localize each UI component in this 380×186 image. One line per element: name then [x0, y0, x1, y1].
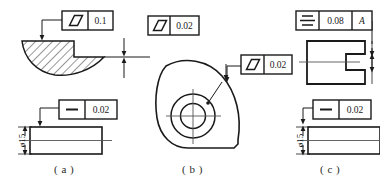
diameter-15-c: ø15	[295, 133, 305, 147]
caption-figure-b: ( b )	[182, 163, 203, 175]
datum-letter: A	[358, 16, 365, 26]
flatness-frame-a-top[interactable]: 0.1	[62, 11, 113, 30]
flatness-frame-a-right[interactable]: 0.02	[148, 16, 199, 35]
straightness-frame-a-bottom[interactable]: 0.02	[59, 100, 117, 119]
drawing-canvas: 0.1 0.02 ø15	[0, 0, 380, 186]
flatness-frame-b[interactable]: 0.02	[241, 55, 292, 74]
tolerance-value: 0.02	[270, 60, 287, 70]
slotted-block-c	[307, 41, 365, 84]
caption-figure-a: ( a )	[54, 163, 74, 175]
tolerance-value: 0.02	[93, 105, 110, 115]
hatched-section-a	[22, 41, 104, 75]
tolerance-value: 0.1	[95, 16, 107, 26]
leader-c-bottom	[303, 108, 313, 122]
diameter-15-a: ø15	[17, 133, 27, 147]
straightness-frame-c-bottom[interactable]: 0.02	[313, 100, 371, 119]
tolerance-value: 0.08	[327, 16, 344, 26]
symmetry-frame-c-top[interactable]: 0.08 A	[296, 11, 372, 30]
tolerance-value: 0.02	[347, 105, 364, 115]
tolerance-value: 0.02	[176, 21, 193, 31]
figure-b-group	[156, 61, 241, 148]
leader-a-bottom	[40, 108, 59, 124]
leader-a-top	[42, 20, 62, 38]
engineering-drawing-svg: 0.1 0.02 ø15	[0, 0, 380, 186]
caption-figure-c: ( c )	[320, 163, 340, 175]
leader-dot-b	[206, 101, 210, 105]
